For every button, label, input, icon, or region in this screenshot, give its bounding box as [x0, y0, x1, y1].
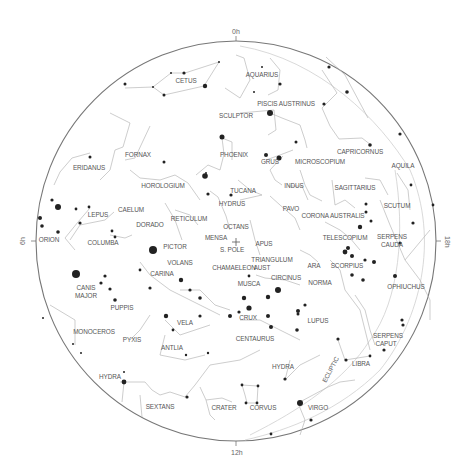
constellation-label-volans: VOLANS	[167, 259, 192, 266]
s-pole-label: S. POLE	[220, 246, 244, 253]
south-pole-marker	[232, 238, 240, 246]
constellation-label-telescopium: TELESCOPIUM	[323, 234, 368, 241]
constellation-label-ara: ARA	[308, 262, 322, 269]
constellation-label-sculptor: SCULPTOR	[219, 112, 253, 119]
constellation-label-canis: CANIS	[76, 284, 95, 291]
constellation-label-virgo: VIRGO	[308, 404, 328, 411]
constellation-label-grus: GRUS	[261, 158, 279, 165]
constellation-label-sextans: SEXTANS	[146, 403, 175, 410]
constellation-label-vela: VELA	[177, 319, 194, 326]
constellation-label-octans: OCTANS	[223, 223, 249, 230]
constellation-label-chamaeleon: CHAMAELEON	[212, 264, 256, 271]
constellation-label-tucana: TUCANA	[230, 187, 257, 194]
hour-marker-18h: 18h	[444, 236, 451, 248]
constellation-label-pavo: PAVO	[283, 205, 300, 212]
constellation-label-corona-australis: CORONA AUSTRALIS	[301, 212, 364, 219]
constellation-label-scutum: SCUTUM	[384, 202, 411, 209]
constellation-label-sagittarius: SAGITTARIUS	[334, 184, 375, 191]
constellation-label-ophiuchus: OPHIUCHUS	[387, 283, 424, 290]
constellation-label-caelum: CAELUM	[118, 206, 144, 213]
constellation-label-pictor: PICTOR	[163, 243, 187, 250]
ecliptic-label: ECLIPTIC	[321, 355, 341, 383]
constellation-label-hydra: HYDRA	[272, 363, 295, 370]
constellation-label-piscis-austrinus: PISCIS AUSTRINUS	[257, 100, 315, 107]
constellation-label-monoceros: MONOCEROS	[73, 328, 115, 335]
star-chart: 0h 6h 12h 18h ECLIPTIC	[0, 0, 473, 474]
constellation-label-carina: CARINA	[150, 270, 174, 277]
hour-marker-0h: 0h	[232, 28, 240, 35]
constellation-label-circinus: CIRCINUS	[271, 274, 301, 281]
constellation-label-eridanus: ERIDANUS	[73, 164, 105, 171]
constellation-label-crater: CRATER	[211, 404, 237, 411]
constellation-label-fornax: FORNAX	[125, 151, 152, 158]
constellation-label-capricornus: CAPRICORNUS	[337, 148, 383, 155]
constellation-label-hydra: HYDRA	[99, 373, 122, 380]
constellation-label-columba: COLUMBA	[88, 239, 120, 246]
constellation-label-aquarius: AQUARIUS	[246, 71, 279, 79]
constellation-label-phoenix: PHOENIX	[220, 151, 249, 158]
constellation-label-caput: CAPUT	[375, 340, 396, 347]
constellation-label-antlia: ANTLIA	[161, 344, 184, 351]
constellation-label-centaurus: CENTAURUS	[236, 335, 274, 342]
hour-marker-12h: 12h	[231, 449, 243, 456]
constellation-label-horologium: HOROLOGIUM	[141, 182, 184, 189]
constellation-label-scorpius: SCORPIUS	[331, 262, 364, 269]
constellation-label-dorado: DORADO	[136, 221, 164, 228]
constellation-label-lepus: LEPUS	[88, 211, 108, 218]
constellation-label-cetus: CETUS	[175, 77, 196, 84]
constellation-label-corvus: CORVUS	[250, 404, 277, 411]
constellation-label-libra: LIBRA	[352, 360, 371, 367]
constellation-label-triangulum: TRIANGULUM	[251, 256, 292, 263]
constellation-label-indus: INDUS	[284, 182, 303, 189]
constellation-label-lupus: LUPUS	[308, 317, 329, 324]
constellation-label-serpens: SERPENS	[377, 233, 407, 240]
constellation-labels: CETUSAQUARIUSPISCIS AUSTRINUSSCULPTORCAP…	[39, 71, 425, 411]
constellation-label-cauda: CAUDA	[381, 241, 404, 248]
constellation-label-pyxis: PYXIS	[123, 336, 141, 343]
constellation-label-puppis: PUPPIS	[111, 304, 134, 311]
constellation-label-major: MAJOR	[75, 292, 97, 299]
constellation-label-mensa: MENSA	[205, 234, 228, 241]
constellation-label-aquila: AQUILA	[392, 162, 416, 170]
ecliptic-line-2	[250, 170, 400, 435]
constellation-label-musca: MUSCA	[238, 280, 261, 287]
constellation-label-aust: AUST	[254, 264, 271, 271]
constellation-label-reticulum: RETICULUM	[171, 215, 207, 222]
constellation-label-microscopium: MICROSCOPIUM	[295, 158, 345, 165]
constellation-label-norma: NORMA	[308, 279, 332, 286]
constellation-label-serpens: SERPENS	[373, 332, 403, 339]
constellation-label-orion: ORION	[39, 236, 60, 243]
hour-marker-6h: 6h	[19, 237, 26, 245]
constellation-label-apus: APUS	[255, 240, 272, 247]
constellation-label-hydrus: HYDRUS	[219, 200, 245, 207]
constellation-label-crux: CRUX	[239, 314, 258, 321]
